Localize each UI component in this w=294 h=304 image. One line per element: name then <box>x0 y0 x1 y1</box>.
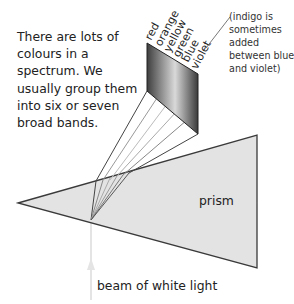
white-light-beam <box>87 220 95 300</box>
beam-label: beam of white light <box>97 278 217 293</box>
intro-text: There are lots of colours in a spectrum.… <box>17 28 147 131</box>
beam-arrow-icon <box>87 258 95 270</box>
indigo-note: (indigo is sometimes added between blue … <box>229 10 294 75</box>
prism-label: prism <box>199 193 234 208</box>
note-leader-line <box>206 17 230 48</box>
